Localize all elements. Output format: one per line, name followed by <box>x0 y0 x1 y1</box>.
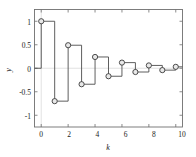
y-tick-label-1: 1 <box>27 18 31 27</box>
stairs-plot: 1 0.5 0 -0.5 -1 0 2 4 6 8 10 k y <box>0 0 196 157</box>
x-tick-label-2: 2 <box>67 130 71 139</box>
x-tick-labels: 0 2 4 6 8 10 <box>39 130 186 139</box>
x-tick-label-10: 10 <box>178 130 186 139</box>
x-tick-label-0: 0 <box>39 130 43 139</box>
data-point-marker <box>173 64 178 69</box>
data-point-marker <box>79 82 84 87</box>
figure-canvas: 1 0.5 0 -0.5 -1 0 2 4 6 8 10 k y <box>0 0 196 157</box>
data-point-marker <box>119 60 124 65</box>
data-point-marker <box>146 63 151 68</box>
y-axis-title: y <box>4 68 13 73</box>
y-tick-label-neg1: -1 <box>25 112 31 121</box>
y-tick-label-0p5: 0.5 <box>22 41 32 50</box>
data-point-marker <box>39 19 44 24</box>
x-tick-label-8: 8 <box>152 130 156 139</box>
y-tick-labels: 1 0.5 0 -0.5 -1 <box>19 18 31 121</box>
x-tick-label-6: 6 <box>124 130 128 139</box>
data-point-marker <box>52 99 57 104</box>
stairs-line <box>35 21 183 101</box>
y-tick-label-0: 0 <box>27 65 31 74</box>
data-point-marker <box>92 54 97 59</box>
x-axis-title: k <box>106 143 110 152</box>
data-point-marker <box>66 43 71 48</box>
data-point-marker <box>160 68 165 73</box>
x-tick-label-4: 4 <box>96 130 100 139</box>
y-tick-label-neg0p5: -0.5 <box>19 88 31 97</box>
data-point-marker <box>133 69 138 74</box>
data-point-marker <box>106 74 111 79</box>
